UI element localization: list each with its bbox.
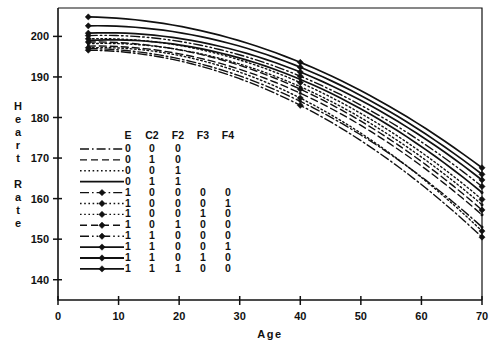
- x-tick-label: 70: [476, 310, 488, 322]
- y-axis-title-letter: t: [16, 152, 20, 164]
- y-tick-label: 160: [31, 193, 49, 205]
- y-axis-title-letter: a: [15, 126, 22, 138]
- y-axis-title-letter: a: [15, 191, 22, 203]
- legend-cell-value: 1: [149, 262, 155, 274]
- legend-column-header: C2: [145, 129, 159, 141]
- chart-background: [0, 0, 496, 343]
- y-axis-title-letter: t: [16, 204, 20, 216]
- marker-dot: [481, 191, 484, 194]
- y-axis-title-letter: H: [14, 100, 22, 112]
- x-tick-label: 60: [415, 310, 427, 322]
- y-tick-label: 150: [31, 233, 49, 245]
- chart-figure: 140150160170180190200 010203040506070 He…: [0, 0, 496, 343]
- x-tick-label: 30: [234, 310, 246, 322]
- legend-cell-value: 0: [225, 262, 231, 274]
- x-axis-title: Age: [257, 328, 282, 340]
- x-tick-label: 50: [355, 310, 367, 322]
- y-tick-label: 200: [31, 30, 49, 42]
- marker-dot: [481, 213, 484, 216]
- legend-column-header: F2: [172, 129, 184, 141]
- x-tick-label: 0: [55, 310, 61, 322]
- x-tick-label: 40: [294, 310, 306, 322]
- y-axis-title-letter: r: [16, 139, 21, 151]
- y-tick-label: 140: [31, 274, 49, 286]
- legend-cell-value: 1: [175, 262, 181, 274]
- legend-column-header: E: [124, 129, 131, 141]
- legend-cell-value: 0: [200, 262, 206, 274]
- y-tick-label: 180: [31, 112, 49, 124]
- legend-column-header: F3: [197, 129, 209, 141]
- legend-column-header: F4: [222, 129, 234, 141]
- y-tick-label: 170: [31, 152, 49, 164]
- y-axis-title-letter: e: [15, 217, 21, 229]
- x-axis-title: Age: [257, 328, 282, 340]
- x-tick-label: 10: [112, 310, 124, 322]
- y-axis-title-letter: e: [15, 113, 21, 125]
- x-tick-label: 20: [173, 310, 185, 322]
- y-tick-label: 190: [31, 71, 49, 83]
- y-axis-title-letter: R: [14, 178, 22, 190]
- marker-dot: [481, 203, 484, 206]
- legend-cell-value: 1: [125, 262, 131, 274]
- heart-rate-vs-age-chart: 140150160170180190200 010203040506070 He…: [0, 0, 496, 343]
